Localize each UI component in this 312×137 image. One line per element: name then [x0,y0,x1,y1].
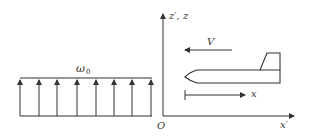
origin-label: O [157,121,165,131]
angular-velocity-label: ω0 [76,63,90,76]
diagram-canvas [0,0,312,137]
horizontal-axis-label: x′ [280,120,288,130]
uniform-distribution-panel [20,78,152,116]
airplane-outline-icon [185,53,280,83]
vertical-axis-label: z′, z [169,11,188,21]
omega-symbol: ω [76,62,85,75]
body-axis-arrow [185,90,245,100]
body-axis-label: x [251,89,257,99]
coordinate-axes [163,14,294,116]
omega-subscript: 0 [86,68,90,76]
velocity-label: V [207,37,214,47]
